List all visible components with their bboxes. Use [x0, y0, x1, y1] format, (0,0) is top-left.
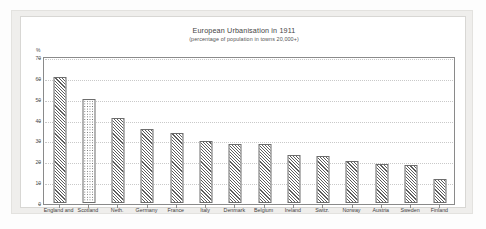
x-tick-label: Scotland [78, 207, 99, 213]
y-tick-mark [38, 79, 41, 80]
y-tick-mark [38, 141, 41, 142]
x-tick-label: Italy [200, 207, 210, 213]
bar[interactable] [53, 77, 66, 203]
bar[interactable] [170, 133, 183, 203]
bar-slot [426, 59, 455, 203]
x-tick-label: France [168, 207, 185, 213]
bar[interactable] [112, 118, 125, 204]
bar-slot [104, 59, 133, 203]
x-tick-label: Norway [343, 207, 361, 213]
y-tick-mark [38, 183, 41, 184]
y-tick-mark [38, 100, 41, 101]
bar[interactable] [141, 129, 154, 203]
bar-slot [133, 59, 162, 203]
bar-slot [338, 59, 367, 203]
x-tick-label: Switz. [315, 207, 329, 213]
bar[interactable] [375, 164, 388, 203]
y-tick-mark [38, 58, 41, 59]
bar-slot [309, 59, 338, 203]
figure-panel: European Urbanisation in 1911 (percentag… [20, 16, 466, 208]
x-tick-label: England and [44, 207, 74, 213]
bar[interactable] [229, 144, 242, 203]
bar-slot [162, 59, 191, 203]
title-block: European Urbanisation in 1911 (percentag… [21, 26, 467, 43]
bar-slot [45, 59, 74, 203]
bar[interactable] [287, 155, 300, 203]
y-tick-mark [38, 204, 41, 205]
x-tick-label: Sweden [400, 207, 419, 213]
bar[interactable] [405, 165, 418, 203]
x-axis-labels: England andScotlandNeth.GermanyFranceIta… [43, 207, 455, 221]
x-tick-label: Austria [373, 207, 390, 213]
bar[interactable] [200, 141, 213, 203]
bar-slot [279, 59, 308, 203]
bar-slot [367, 59, 396, 203]
x-tick-label: Germany [136, 207, 158, 213]
bar-slot [191, 59, 220, 203]
y-tick-mark [38, 162, 41, 163]
y-axis-unit-label: % [36, 47, 40, 53]
bar-slot [74, 59, 103, 203]
bar[interactable] [317, 156, 330, 203]
bars-layer [45, 59, 453, 203]
bar[interactable] [346, 161, 359, 203]
x-tick-label: Belgium [254, 207, 273, 213]
y-axis: 010203040506070 [21, 57, 41, 205]
bar[interactable] [82, 99, 95, 203]
bar-slot [250, 59, 279, 203]
bar[interactable] [258, 144, 271, 203]
x-tick-label: Finland [431, 207, 448, 213]
bar-slot [221, 59, 250, 203]
bar[interactable] [434, 179, 447, 203]
chart-title: European Urbanisation in 1911 [21, 26, 467, 35]
y-tick-mark [38, 121, 41, 122]
x-tick-label: Ireland [285, 207, 301, 213]
chart-subtitle: (percentage of population in towns 20,00… [21, 35, 467, 43]
x-tick-label: Denmark [224, 207, 246, 213]
x-tick-label: Neth. [111, 207, 124, 213]
plot-area [43, 57, 455, 205]
bar-slot [396, 59, 425, 203]
chart-page: European Urbanisation in 1911 (percentag… [0, 0, 486, 229]
